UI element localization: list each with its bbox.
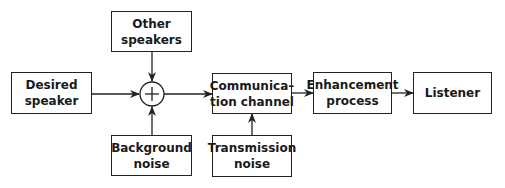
transmission-noise-label-2: noise: [208, 156, 296, 172]
background-noise-box: Background noise: [111, 135, 192, 176]
other-speakers-box: Other speakers: [111, 11, 192, 52]
transmission-noise-box: Transmission noise: [212, 135, 292, 177]
background-noise-label-1: Background: [111, 140, 192, 156]
communication-channel-label-2: tion channel: [210, 94, 294, 110]
enhancement-process-box: Enhancement process: [313, 72, 392, 114]
listener-box: Listener: [413, 72, 492, 114]
enhancement-process-label-1: Enhancement: [306, 77, 398, 93]
communication-channel-label-1: Communica–: [210, 78, 294, 94]
desired-speaker-label-2: speaker: [25, 93, 79, 109]
desired-speaker-label-1: Desired: [25, 77, 79, 93]
background-noise-label-2: noise: [111, 156, 192, 172]
desired-speaker-box: Desired speaker: [11, 72, 92, 114]
enhancement-process-label-2: process: [306, 93, 398, 109]
other-speakers-label-2: speakers: [121, 32, 182, 48]
listener-label: Listener: [425, 85, 480, 101]
other-speakers-label-1: Other: [121, 16, 182, 32]
transmission-noise-label-1: Transmission: [208, 140, 296, 156]
communication-channel-box: Communica– tion channel: [212, 73, 292, 114]
